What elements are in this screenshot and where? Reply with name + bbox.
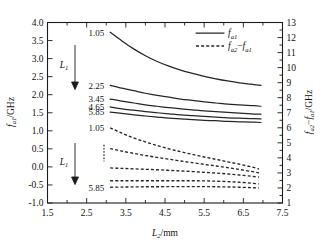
series-param-label: 1.05: [88, 28, 104, 38]
series-param-label: 2.25: [88, 81, 104, 91]
x-tick-label: 3.5: [120, 208, 132, 218]
y-tick-label-right: 12: [287, 33, 297, 43]
y-tick-label-right: 13: [287, 18, 297, 28]
chart-svg: 1.52.53.54.55.56.57.5 4.03.53.02.52.01.5…: [0, 0, 324, 252]
y-tick-label-right: 10: [287, 63, 297, 73]
y-tick-label-right: 7: [287, 108, 292, 118]
y-tick-label-left: 0.0: [32, 162, 44, 172]
y-tick-label-left: 1.5: [32, 108, 44, 118]
y-tick-label-left: -0.5: [28, 180, 43, 190]
y-tick-label-right: 2: [287, 183, 292, 193]
y-tick-label-left: 3.5: [32, 36, 44, 46]
y-tick-label-right: 8: [287, 93, 292, 103]
y-tick-label-right: 3: [287, 168, 292, 178]
x-axis-title: L2/mm: [151, 228, 179, 239]
y-tick-label-right: 1: [287, 198, 292, 208]
y-tick-label-right: 6: [287, 123, 292, 133]
x-tick-label: 4.5: [159, 208, 171, 218]
y-tick-label-left: 1.0: [32, 126, 44, 136]
series-param-label: 1.05: [88, 123, 104, 133]
series-param-label: 5.85: [88, 107, 104, 117]
x-tick-label: 7.5: [277, 208, 289, 218]
y-tick-label-left: -1.0: [28, 198, 43, 208]
x-tick-label: 1.5: [42, 208, 54, 218]
y-tick-label-left: 4.0: [32, 18, 44, 28]
chart-figure: 1.52.53.54.55.56.57.5 4.03.53.02.52.01.5…: [0, 0, 324, 252]
y-tick-label-left: 2.5: [32, 72, 44, 82]
y-tick-label-left: 3.0: [32, 54, 44, 64]
y-tick-label-left: 0.5: [32, 144, 44, 154]
x-tick-label: 2.5: [81, 208, 93, 218]
x-tick-label: 6.5: [237, 208, 249, 218]
x-tick-label: 5.5: [198, 208, 210, 218]
y-tick-label-right: 4: [287, 153, 292, 163]
y-tick-label-right: 5: [287, 138, 292, 148]
y-tick-label-left: 2.0: [32, 90, 44, 100]
series-param-label: 5.85: [88, 183, 104, 193]
y-tick-label-right: 11: [287, 48, 296, 58]
y-tick-label-right: 9: [287, 78, 292, 88]
